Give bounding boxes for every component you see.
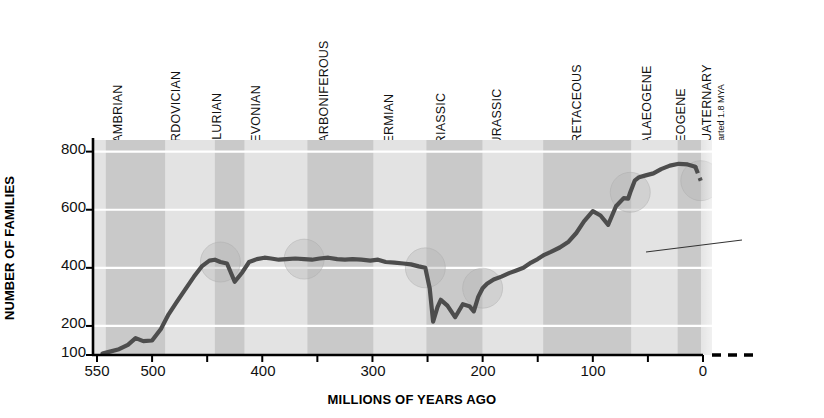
period-band-triassic [426, 140, 482, 355]
period-band-cambrian [106, 140, 165, 355]
right-fade-mask [700, 140, 824, 355]
chart-plot-area [0, 0, 824, 418]
chart-root: CAMBRIAN ORDOVICIAN SILURIAN DEVONIAN CA… [0, 0, 824, 418]
period-bands-group [93, 140, 712, 355]
period-band-permian [374, 140, 427, 355]
period-band-jurassic [483, 140, 544, 355]
